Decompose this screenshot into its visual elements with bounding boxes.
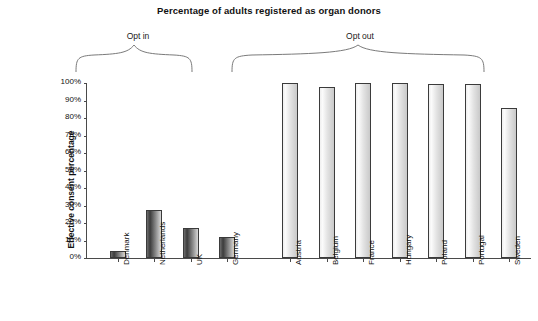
y-tick-mark — [84, 83, 87, 84]
y-tick-label: 0% — [69, 252, 81, 261]
y-tick-label: 50% — [65, 165, 81, 174]
organ-donor-bar-chart: Percentage of adults registered as organ… — [0, 0, 538, 321]
x-tick-mark — [154, 258, 155, 262]
x-axis-label-denmark: Denmark — [122, 233, 131, 265]
bar-belgium — [319, 87, 335, 259]
x-tick-mark — [363, 258, 364, 262]
y-tick-label: 40% — [65, 182, 81, 191]
y-tick-mark — [84, 223, 87, 224]
x-tick-mark — [436, 258, 437, 262]
x-axis-label-poland: Poland — [440, 240, 449, 265]
bar-portugal — [465, 84, 481, 258]
y-tick-label: 60% — [65, 147, 81, 156]
y-tick-label: 100% — [61, 77, 81, 86]
x-axis-label-portugal: Portugal — [477, 235, 486, 265]
y-tick-label: 80% — [65, 112, 81, 121]
x-axis-label-hungary: Hungary — [404, 235, 413, 265]
y-axis-title: Effective consent percentage — [66, 0, 80, 102]
group-label-opt-in: Opt in — [108, 31, 168, 41]
chart-title: Percentage of adults registered as organ… — [0, 5, 538, 16]
x-axis-label-uk: UK — [195, 254, 204, 265]
x-tick-mark — [227, 258, 228, 262]
brace-opt-out — [232, 45, 484, 72]
y-tick-label: 90% — [65, 95, 81, 104]
x-axis-label-belgium: Belgium — [331, 236, 340, 265]
y-tick-mark — [84, 118, 87, 119]
x-tick-mark — [191, 258, 192, 262]
bar-france — [355, 83, 371, 258]
y-tick-mark — [84, 171, 87, 172]
plot-area: Effective consent percentage 0%10%20%30%… — [86, 83, 531, 259]
x-axis-label-netherlands: Netherlands — [158, 222, 167, 265]
y-tick-mark — [84, 241, 87, 242]
y-tick-mark — [84, 258, 87, 259]
x-tick-mark — [473, 258, 474, 262]
x-tick-mark — [509, 258, 510, 262]
y-tick-label: 30% — [65, 200, 81, 209]
y-tick-mark — [84, 188, 87, 189]
x-axis-label-france: France — [367, 240, 376, 265]
x-axis-label-austria: Austria — [294, 240, 303, 265]
y-tick-label: 10% — [65, 235, 81, 244]
x-tick-mark — [400, 258, 401, 262]
x-axis-label-germany: Germany — [231, 232, 240, 265]
y-tick-mark — [84, 153, 87, 154]
brace-opt-in — [76, 45, 192, 72]
x-axis-label-sweden: Sweden — [513, 236, 522, 265]
y-tick-label: 20% — [65, 217, 81, 226]
x-tick-mark — [118, 258, 119, 262]
x-tick-mark — [290, 258, 291, 262]
bar-austria — [282, 83, 298, 258]
y-tick-mark — [84, 136, 87, 137]
bar-poland — [428, 84, 444, 258]
y-tick-mark — [84, 101, 87, 102]
group-label-opt-out: Opt out — [330, 31, 390, 41]
x-tick-mark — [327, 258, 328, 262]
y-tick-label: 70% — [65, 130, 81, 139]
y-tick-mark — [84, 206, 87, 207]
bar-hungary — [392, 83, 408, 258]
